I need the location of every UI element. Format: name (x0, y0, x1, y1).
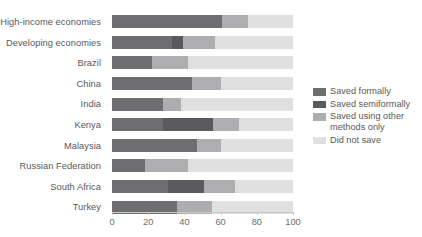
bar-row (112, 12, 293, 33)
bar-segment (152, 56, 188, 69)
bar-segment (112, 15, 222, 28)
bar-row (112, 115, 293, 136)
category-label: Brazil (0, 53, 106, 74)
x-tick-mark (257, 212, 258, 215)
bar-segment (235, 180, 293, 193)
bar-segment (112, 139, 197, 152)
stacked-bar (112, 98, 293, 111)
category-axis-labels: High-income economiesDeveloping economie… (0, 12, 106, 218)
bar-row (112, 33, 293, 54)
bar-segment (221, 77, 293, 90)
bar-row (112, 156, 293, 177)
bar-row (112, 94, 293, 115)
x-tick-mark (293, 212, 294, 215)
x-tick-mark (148, 212, 149, 215)
bar-segment (188, 56, 293, 69)
category-label: Kenya (0, 115, 106, 136)
plot-area (112, 12, 293, 218)
legend-swatch-icon (313, 101, 326, 109)
bar-segment (221, 139, 293, 152)
bar-segment (112, 98, 163, 111)
legend-swatch-icon (313, 88, 326, 96)
legend-item[interactable]: Saved formally (313, 86, 419, 97)
bar-row (112, 74, 293, 95)
legend-label: Saved semiformally (330, 99, 410, 110)
stacked-bar (112, 159, 293, 172)
category-label: Turkey (0, 197, 106, 218)
category-label: China (0, 74, 106, 95)
legend-item[interactable]: Saved using other methods only (313, 111, 419, 133)
legend-item[interactable]: Did not save (313, 135, 419, 146)
bar-segment (172, 36, 183, 49)
x-tick-mark (184, 212, 185, 215)
bar-segment (213, 118, 238, 131)
bar-segment (112, 118, 163, 131)
stacked-bar (112, 15, 293, 28)
bar-segment (112, 180, 168, 193)
x-tick-mark (221, 212, 222, 215)
category-label: High-income economies (0, 12, 106, 33)
x-tick-label: 20 (143, 217, 153, 227)
legend-swatch-icon (313, 137, 326, 145)
stacked-bar (112, 36, 293, 49)
bar-segment (222, 15, 247, 28)
bar-segment (168, 180, 204, 193)
bar-segment (112, 36, 172, 49)
bar-segment (215, 36, 293, 49)
bar-row (112, 53, 293, 74)
bar-segment (183, 36, 216, 49)
bar-segment (192, 77, 221, 90)
x-tick-label: 40 (179, 217, 189, 227)
stacked-bar (112, 118, 293, 131)
bar-segment (163, 98, 181, 111)
bar-row (112, 136, 293, 157)
legend-item[interactable]: Saved semiformally (313, 99, 419, 110)
legend-label: Saved using other methods only (330, 111, 404, 133)
legend-label: Saved formally (330, 86, 391, 97)
x-tick-mark (112, 212, 113, 215)
bar-segment (112, 56, 152, 69)
x-tick-label: 100 (285, 217, 301, 227)
bar-segment (248, 15, 293, 28)
category-label: Malaysia (0, 136, 106, 157)
stacked-bar (112, 180, 293, 193)
stacked-bar (112, 77, 293, 90)
legend-swatch-icon (313, 113, 326, 121)
bar-segment (145, 159, 188, 172)
chart-legend: Saved formallySaved semiformallySaved us… (313, 86, 419, 147)
stacked-bar (112, 56, 293, 69)
bar-row (112, 197, 293, 218)
bar-segment (197, 139, 221, 152)
category-label: Developing economies (0, 33, 106, 54)
stacked-bar (112, 139, 293, 152)
bar-segment (204, 180, 235, 193)
x-tick-label: 0 (109, 217, 114, 227)
bar-segment (112, 159, 145, 172)
x-axis-line (112, 212, 293, 213)
category-label: Russian Federation (0, 156, 106, 177)
bar-segment (112, 77, 192, 90)
legend-label: Did not save (330, 135, 381, 146)
x-tick-label: 60 (215, 217, 225, 227)
bar-row (112, 177, 293, 198)
x-tick-label: 80 (252, 217, 262, 227)
stacked-bar-chart: High-income economiesDeveloping economie… (0, 0, 422, 237)
bar-segment (163, 118, 214, 131)
bar-segment (188, 159, 293, 172)
bar-segment (239, 118, 293, 131)
bar-segment (181, 98, 293, 111)
category-label: India (0, 94, 106, 115)
category-label: South Africa (0, 177, 106, 198)
